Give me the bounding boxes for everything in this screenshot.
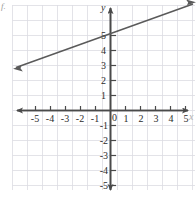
x-tick-label--5: -5 (27, 114, 43, 124)
y-tick-label--5: -5 (92, 181, 108, 191)
y-tick-label-5: 5 (90, 31, 106, 41)
y-tick-label-2: 2 (90, 76, 106, 86)
x-tick-label--2: -2 (72, 114, 88, 124)
y-tick-label--3: -3 (92, 151, 108, 161)
y-tick-label-1: 1 (90, 91, 106, 101)
x-axis-label: x (189, 112, 193, 122)
x-tick-label-1: 1 (118, 114, 134, 124)
x-tick-label--3: -3 (57, 114, 73, 124)
x-tick-label-2: 2 (133, 114, 149, 124)
y-tick-label-3: 3 (90, 61, 106, 71)
x-tick-label--4: -4 (42, 114, 58, 124)
origin-label: 0 (112, 113, 117, 123)
x-tick-label-4: 4 (163, 114, 179, 124)
y-tick-label--1: -1 (92, 121, 108, 131)
x-tick-label-3: 3 (148, 114, 164, 124)
graph-screenshot: f. (0, 0, 196, 201)
y-tick-label--4: -4 (92, 166, 108, 176)
y-axis-label: y (101, 3, 105, 13)
y-tick-label--2: -2 (92, 136, 108, 146)
y-tick-label-4: 4 (90, 46, 106, 56)
